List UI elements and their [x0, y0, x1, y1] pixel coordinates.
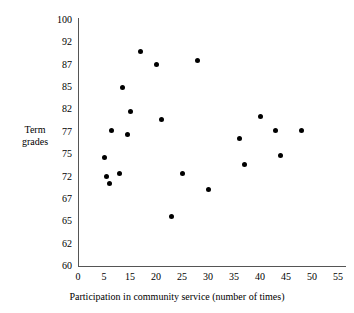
data-point [237, 136, 242, 141]
x-tick-label: 0 [66, 272, 90, 282]
data-point [107, 181, 112, 186]
data-point [109, 128, 114, 133]
data-point [128, 109, 133, 114]
y-tick-label: 85 [46, 82, 72, 92]
data-point [117, 171, 122, 176]
data-point [159, 117, 164, 122]
data-point [180, 171, 185, 176]
x-tick-label: 5 [92, 272, 116, 282]
data-point [104, 174, 109, 179]
y-tick-label: 77 [46, 127, 72, 137]
x-tick-label: 55 [326, 272, 350, 282]
x-tick-label: 15 [118, 272, 142, 282]
data-point [195, 58, 200, 63]
x-tick-label: 40 [248, 272, 272, 282]
data-point [206, 187, 211, 192]
y-tick-label: 67 [46, 194, 72, 204]
x-axis-title: Participation in community service (numb… [0, 291, 354, 302]
data-point [125, 132, 130, 137]
data-point [242, 162, 247, 167]
x-tick-label: 35 [222, 272, 246, 282]
y-axis-title-line-1: grades [8, 136, 62, 148]
data-point [278, 153, 283, 158]
y-tick-label: 100 [46, 15, 72, 25]
data-point [258, 114, 263, 119]
x-tick-label: 25 [170, 272, 194, 282]
x-tick-label: 20 [144, 272, 168, 282]
data-point [154, 62, 159, 67]
data-point [169, 214, 174, 219]
x-tick-label: 45 [274, 272, 298, 282]
x-tick-label: 50 [300, 272, 324, 282]
y-tick-label: 60 [46, 261, 72, 271]
data-point [102, 155, 107, 160]
scatter-plot-figure: Termgrades 1009287858277757267656260 051… [0, 0, 354, 313]
y-tick-label: 92 [46, 37, 72, 47]
data-point [299, 128, 304, 133]
y-tick-label: 72 [46, 172, 72, 182]
plot-area [78, 18, 346, 267]
x-tick-label: 30 [196, 272, 220, 282]
data-point [273, 128, 278, 133]
y-tick-label: 75 [46, 149, 72, 159]
y-tick-label: 87 [46, 60, 72, 70]
data-point [120, 85, 125, 90]
data-point [138, 49, 143, 54]
y-tick-label: 62 [46, 239, 72, 249]
y-tick-label: 82 [46, 104, 72, 114]
y-tick-label: 65 [46, 216, 72, 226]
